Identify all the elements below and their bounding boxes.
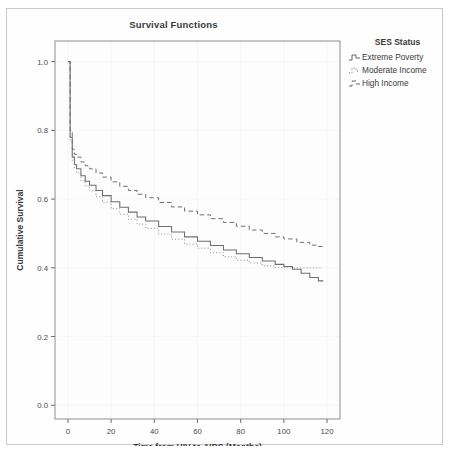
legend-item: High Income: [348, 78, 451, 89]
legend-line-sample-icon: [348, 66, 361, 75]
y-tick-label: 0.4: [37, 264, 49, 273]
x-tick-label: 80: [236, 427, 245, 436]
x-tick-label: 120: [321, 427, 335, 436]
y-tick-label: 0.6: [37, 195, 48, 204]
x-tick-label: 60: [193, 427, 202, 436]
plot-border: [55, 41, 340, 419]
y-tick-label: 0.0: [37, 401, 49, 410]
y-tick-label: 0.8: [37, 126, 48, 135]
legend-line-sample-icon: [348, 53, 361, 62]
legend: SES Status Extreme PovertyModerate Incom…: [348, 37, 451, 91]
y-tick-label: 0.2: [37, 333, 48, 342]
x-tick-label: 0: [66, 427, 71, 436]
legend-item-label: Extreme Poverty: [362, 52, 423, 63]
x-tick-label: 40: [150, 427, 159, 436]
y-tick-label: 1.0: [37, 58, 49, 67]
chart-frame: Survival Functions 020406080100120 0.00.…: [6, 8, 443, 445]
y-axis-ticks: 0.00.20.40.60.81.0: [37, 58, 55, 411]
legend-item-label: Moderate Income: [362, 65, 427, 76]
legend-item: Extreme Poverty: [348, 52, 451, 63]
legend-title: SES Status: [348, 37, 451, 47]
legend-line-sample-icon: [348, 79, 361, 88]
legend-items: Extreme PovertyModerate IncomeHigh Incom…: [348, 52, 451, 89]
x-tick-label: 100: [277, 427, 291, 436]
x-axis-title: Time from HIV to AIDS (Months): [133, 442, 262, 446]
legend-item: Moderate Income: [348, 65, 451, 76]
y-axis-title: Cumulative Survival: [15, 189, 25, 270]
x-axis-ticks: 020406080100120: [66, 419, 334, 436]
x-tick-label: 20: [107, 427, 116, 436]
legend-item-label: High Income: [362, 78, 409, 89]
